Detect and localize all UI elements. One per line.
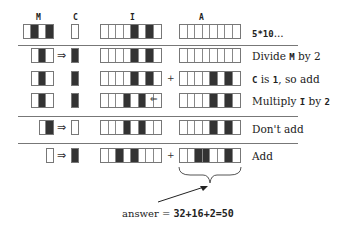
- brace-and-pointer: [0, 0, 341, 227]
- multiplication-diagram: M C I A ⇒+⇐⇒⇒+ 5*10... Divide M by 2 C i…: [0, 0, 341, 227]
- answer-text: answer = 32+16+2=50: [122, 208, 234, 219]
- pointer-arrow-icon: [158, 187, 204, 202]
- curly-brace-icon: [179, 167, 241, 183]
